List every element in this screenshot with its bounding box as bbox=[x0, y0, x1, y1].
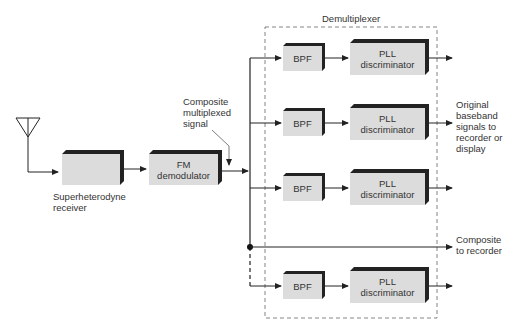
antenna-icon bbox=[16, 118, 40, 137]
composite-recorder-label: Composite to recorder bbox=[456, 234, 502, 256]
demultiplexer-title: Demultiplexer bbox=[322, 13, 380, 24]
bpf-label-3: BPF bbox=[283, 176, 322, 201]
pll-label-3: PLL discriminator bbox=[350, 173, 425, 205]
antenna-to-receiver-line bbox=[28, 137, 58, 172]
bpf-label-4: BPF bbox=[283, 274, 322, 299]
fm-demodulator-label: FM demodulator bbox=[149, 154, 218, 185]
pll-label-1: PLL discriminator bbox=[350, 43, 425, 75]
outputs-label: Original baseband signals to recorder or… bbox=[456, 99, 502, 154]
bpf-label-2: BPF bbox=[283, 111, 322, 136]
receiver-caption: Superheterodyne receiver bbox=[53, 191, 126, 213]
pll-label-2: PLL discriminator bbox=[350, 108, 425, 140]
bpf-label-1: BPF bbox=[283, 46, 322, 71]
pll-label-4: PLL discriminator bbox=[350, 271, 425, 303]
block-diagram bbox=[0, 0, 517, 336]
composite-signal-label: Composite multiplexed signal bbox=[183, 96, 231, 129]
superheterodyne-receiver-block bbox=[62, 150, 124, 185]
